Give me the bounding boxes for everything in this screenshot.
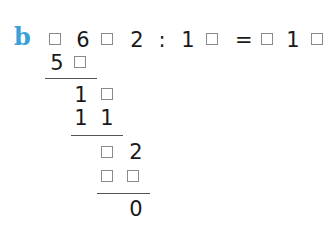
equals-operator: = [235,28,249,52]
blank-box[interactable] [101,170,113,182]
subtraction-line [71,135,123,136]
digit: 1 [100,106,114,130]
exercise-label: b [14,25,31,49]
blank-box[interactable] [311,33,323,45]
digit: 2 [129,140,143,164]
digit: 1 [74,83,88,107]
blank-box[interactable] [127,170,139,182]
blank-box[interactable] [101,33,113,45]
digit-remainder: 0 [129,197,143,218]
blank-box[interactable] [206,33,218,45]
blank-box[interactable] [49,33,61,45]
digit: 6 [76,28,90,52]
subtraction-line [97,193,150,194]
blank-box[interactable] [101,88,113,100]
divide-operator: : [155,28,169,52]
blank-box[interactable] [101,146,113,158]
blank-box[interactable] [261,33,273,45]
subtraction-line [45,78,97,79]
digit: 5 [50,51,64,75]
digit: 1 [286,28,300,52]
digit: 1 [181,28,195,52]
digit: 2 [130,28,144,52]
blank-box[interactable] [74,56,86,68]
digit: 1 [74,106,88,130]
